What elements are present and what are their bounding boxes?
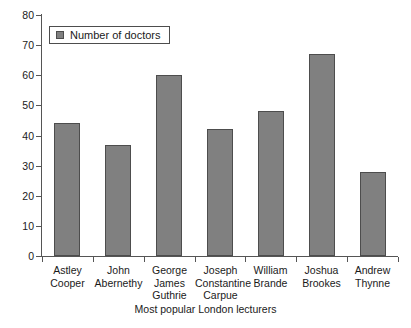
x-axis-category-label-line: Abernethy <box>93 277 144 290</box>
x-axis-category-label-line: William <box>245 264 296 277</box>
x-axis-category-label: WilliamBrande <box>245 264 296 289</box>
bar <box>207 129 233 256</box>
bar <box>309 54 335 256</box>
chart-legend: Number of doctors <box>49 26 170 44</box>
x-axis-category-label-line: John <box>93 264 144 277</box>
x-axis-category-label-line: Andrew <box>347 264 398 277</box>
x-axis-category-label-line: Brookes <box>296 277 347 290</box>
x-axis-category-label-line: James <box>144 277 195 290</box>
x-axis-category-label: AndrewThynne <box>347 264 398 289</box>
legend-label: Number of doctors <box>70 30 160 41</box>
bar-chart: 01020304050607080 AstleyCooperJohnAberne… <box>0 0 411 328</box>
bar <box>360 172 386 256</box>
bar <box>156 75 182 256</box>
x-axis-category-label-line: Joseph <box>195 264 246 277</box>
x-axis-category-label-line: Constantine <box>195 277 246 290</box>
x-axis-title: Most popular London lecturers <box>0 303 411 315</box>
x-axis-category-label: GeorgeJamesGuthrie <box>144 264 195 302</box>
x-axis-category-label-line: Guthrie <box>144 289 195 302</box>
bar <box>105 145 131 256</box>
bar <box>258 111 284 256</box>
x-axis-category-label: AstleyCooper <box>42 264 93 289</box>
x-axis-category-label: JosephConstantineCarpue <box>195 264 246 302</box>
x-axis-category-label-line: George <box>144 264 195 277</box>
x-axis-category-label-line: Carpue <box>195 289 246 302</box>
bar <box>54 123 80 256</box>
legend-swatch-icon <box>56 31 64 39</box>
x-axis-category-label: JoshuaBrookes <box>296 264 347 289</box>
x-axis-category-label-line: Joshua <box>296 264 347 277</box>
x-axis-category-label: JohnAbernethy <box>93 264 144 289</box>
x-axis-category-label-line: Astley <box>42 264 93 277</box>
x-axis-category-label-line: Cooper <box>42 277 93 290</box>
x-axis-category-label-line: Brande <box>245 277 296 290</box>
x-axis-category-label-line: Thynne <box>347 277 398 290</box>
